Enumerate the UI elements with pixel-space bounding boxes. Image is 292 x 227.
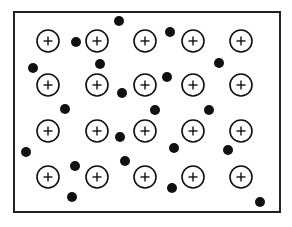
positive-ion-icon bbox=[230, 74, 252, 96]
electron-icon bbox=[71, 37, 81, 47]
electron-icon bbox=[115, 132, 125, 142]
positive-ion-icon bbox=[230, 120, 252, 142]
positive-ion-icon bbox=[37, 166, 59, 188]
electron-icon bbox=[114, 16, 124, 26]
positive-ion-icon bbox=[37, 30, 59, 52]
positive-ion-icon bbox=[182, 166, 204, 188]
positive-ion-icon bbox=[37, 74, 59, 96]
positive-ion-icon bbox=[134, 30, 156, 52]
positive-ion-icon bbox=[182, 74, 204, 96]
positive-ion-icon bbox=[86, 120, 108, 142]
positive-ion-icon bbox=[230, 30, 252, 52]
electron-icon bbox=[165, 27, 175, 37]
positive-ion-icon bbox=[86, 30, 108, 52]
electron-icon bbox=[223, 145, 233, 155]
positive-ion-icon bbox=[134, 166, 156, 188]
positive-ion-icon bbox=[86, 74, 108, 96]
electron-icon bbox=[162, 72, 172, 82]
electron-icon bbox=[21, 147, 31, 157]
electron-icon bbox=[67, 192, 77, 202]
electron-icon bbox=[70, 161, 80, 171]
positive-ion-icon bbox=[86, 166, 108, 188]
positive-ion-icon bbox=[230, 166, 252, 188]
electron-icon bbox=[169, 143, 179, 153]
electron-icon bbox=[28, 63, 38, 73]
positive-ion-icon bbox=[182, 30, 204, 52]
electron-icon bbox=[117, 88, 127, 98]
electron-icon bbox=[60, 104, 70, 114]
electron-icon bbox=[150, 105, 160, 115]
electron-icon bbox=[167, 183, 177, 193]
electron-icon bbox=[120, 156, 130, 166]
metallic-bonding-diagram bbox=[0, 0, 292, 227]
electron-icon bbox=[255, 197, 265, 207]
positive-ion-icon bbox=[134, 74, 156, 96]
positive-ion-icon bbox=[134, 120, 156, 142]
electron-icon bbox=[95, 59, 105, 69]
positive-ion-icon bbox=[182, 120, 204, 142]
electron-icon bbox=[204, 105, 214, 115]
positive-ion-icon bbox=[37, 120, 59, 142]
electron-icon bbox=[214, 58, 224, 68]
